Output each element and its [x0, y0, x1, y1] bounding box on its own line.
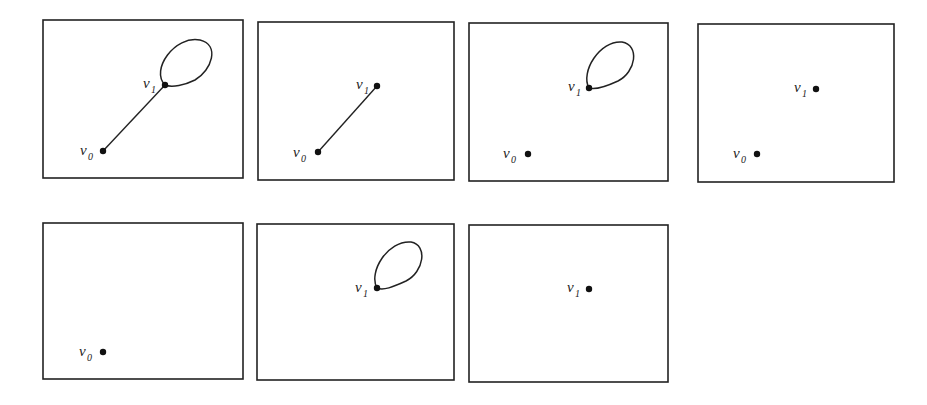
vertex-label-v1: v: [143, 75, 150, 91]
vertex-subscript-v0: 0: [511, 154, 516, 165]
subgraph-panel-7: v1: [469, 225, 668, 382]
vertex-v1: [374, 83, 380, 89]
subgraph-panel-3: v0v1: [469, 23, 668, 181]
panel-frame: [43, 223, 243, 379]
vertex-subscript-v0: 0: [741, 154, 746, 165]
vertex-label-v1: v: [794, 79, 801, 95]
panel-frame: [469, 225, 668, 382]
vertex-v1: [586, 85, 592, 91]
loop-v1: [160, 40, 211, 87]
vertex-label-v1: v: [356, 76, 363, 92]
vertex-subscript-v1: 1: [364, 85, 369, 96]
vertex-v1: [162, 82, 168, 88]
subgraph-figure: v0v1v0v1v0v1v0v1v0v1v1: [0, 0, 927, 405]
vertex-label-v0: v: [293, 144, 300, 160]
vertex-v0: [315, 149, 321, 155]
vertex-v0: [100, 349, 106, 355]
panel-frame: [257, 224, 454, 380]
vertex-v1: [586, 286, 592, 292]
vertex-label-v0: v: [80, 142, 87, 158]
vertex-subscript-v1: 1: [576, 87, 581, 98]
vertex-subscript-v1: 1: [363, 288, 368, 299]
panel-frame: [43, 20, 243, 178]
vertex-v0: [754, 151, 760, 157]
subgraph-panel-2: v0v1: [258, 22, 454, 180]
vertex-subscript-v0: 0: [88, 151, 93, 162]
loop-v1: [587, 42, 634, 89]
vertex-v0: [525, 151, 531, 157]
panel-frame: [698, 24, 894, 182]
vertex-v1: [374, 285, 380, 291]
panel-frame: [469, 23, 668, 181]
vertex-subscript-v1: 1: [575, 288, 580, 299]
vertex-subscript-v1: 1: [151, 84, 156, 95]
vertex-label-v1: v: [568, 78, 575, 94]
vertex-v1: [813, 86, 819, 92]
vertex-label-v0: v: [503, 145, 510, 161]
vertex-label-v0: v: [79, 343, 86, 359]
vertex-label-v1: v: [355, 279, 362, 295]
subgraph-panel-5: v0: [43, 223, 243, 379]
vertex-label-v1: v: [567, 279, 574, 295]
subgraph-panel-4: v0v1: [698, 24, 894, 182]
panel-frame: [258, 22, 454, 180]
loop-v1: [375, 242, 422, 289]
vertex-subscript-v0: 0: [87, 352, 92, 363]
vertex-subscript-v1: 1: [802, 88, 807, 99]
vertex-label-v0: v: [733, 145, 740, 161]
subgraph-panel-1: v0v1: [43, 20, 243, 178]
vertex-v0: [100, 148, 106, 154]
subgraph-panel-6: v1: [257, 224, 454, 380]
vertex-subscript-v0: 0: [301, 153, 306, 164]
